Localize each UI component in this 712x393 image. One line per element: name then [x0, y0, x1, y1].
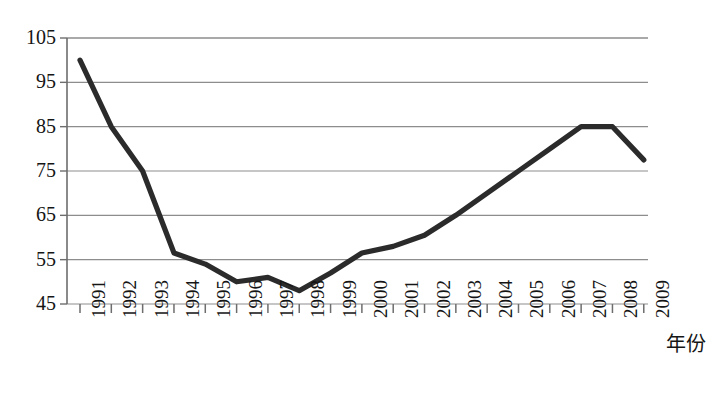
line-chart: 455565758595105 199119921993199419951996… [0, 0, 712, 393]
x-tick-label: 1991 [88, 280, 110, 318]
data-series-line [80, 60, 644, 291]
y-tick-label: 65 [0, 204, 56, 224]
x-tick-label: 1994 [182, 280, 204, 318]
x-tick-label: 2002 [433, 280, 455, 318]
x-tick-label: 2005 [526, 280, 548, 318]
y-tick-label: 105 [0, 27, 56, 47]
x-tick-label: 2000 [370, 280, 392, 318]
y-tick-label: 95 [0, 71, 56, 91]
x-tick-label: 2008 [620, 280, 642, 318]
y-tick-label: 75 [0, 160, 56, 180]
gridlines-group [67, 38, 648, 304]
x-tick-label: 2009 [652, 280, 674, 318]
x-tick-label: 2001 [401, 280, 423, 318]
x-tick-label: 2004 [495, 280, 517, 318]
x-tick-label: 1992 [119, 280, 141, 318]
x-tick-label: 1993 [151, 280, 173, 318]
x-tick-label: 1999 [339, 280, 361, 318]
x-tick-label: 2006 [558, 280, 580, 318]
chart-canvas [0, 0, 712, 393]
y-tick-label: 85 [0, 116, 56, 136]
x-tick-label: 1998 [307, 280, 329, 318]
x-tick-label: 1995 [213, 280, 235, 318]
x-tick-label: 2003 [464, 280, 486, 318]
y-tick-label: 55 [0, 249, 56, 269]
axes-group [60, 38, 67, 304]
x-axis-title: 年份 [666, 328, 706, 357]
x-tick-label: 1997 [276, 280, 298, 318]
x-tick-label: 1996 [245, 280, 267, 318]
x-tick-label: 2007 [589, 280, 611, 318]
y-tick-label: 45 [0, 293, 56, 313]
